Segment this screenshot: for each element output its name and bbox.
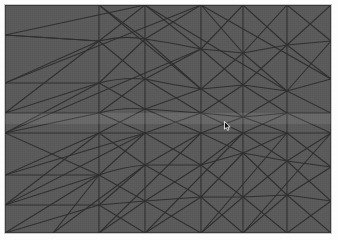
figure-alt-text: A dark gray rectangular panel filled wit… (0, 0, 1, 1)
mesh-frame[interactable] (4, 4, 332, 234)
mesh-viewer-app: A dark gray rectangular panel filled wit… (0, 0, 338, 240)
mesh-svg[interactable] (5, 5, 331, 233)
